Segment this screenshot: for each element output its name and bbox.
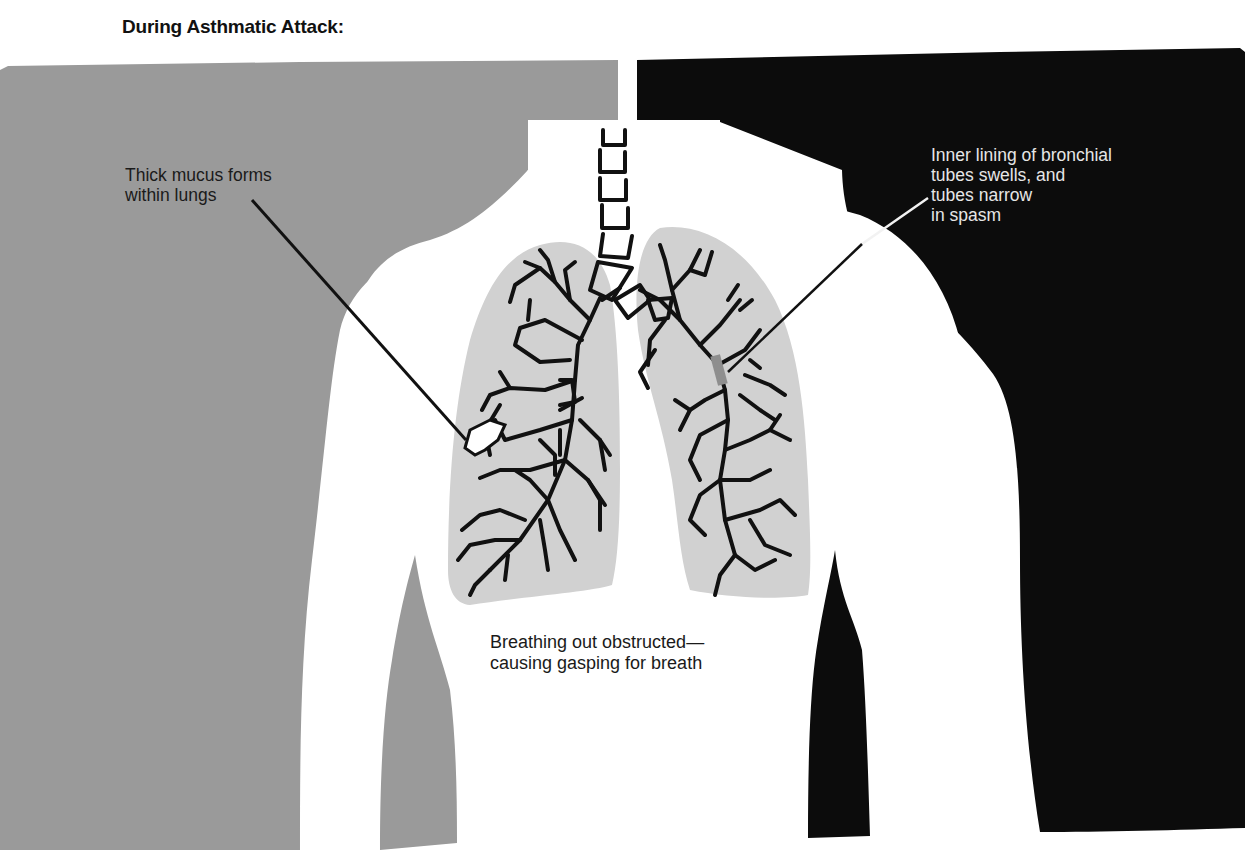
figure-caption: Breathing out obstructed— causing gaspin…	[490, 632, 704, 674]
figure-title: During Asthmatic Attack:	[122, 16, 344, 38]
callout-bronchial-label: Inner lining of bronchial tubes swells, …	[931, 145, 1112, 225]
torso-illustration	[0, 0, 1245, 850]
callout-mucus-label: Thick mucus forms within lungs	[125, 165, 272, 205]
asthma-diagram: During Asthmatic Attack: Thick mucus for…	[0, 0, 1245, 850]
